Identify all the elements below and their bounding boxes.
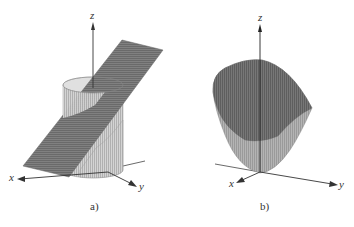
y-label-a: y — [139, 180, 144, 192]
figure-a — [17, 22, 163, 187]
y-axis-b — [260, 172, 332, 184]
z-label-b: z — [258, 11, 262, 23]
z-arrow-icon — [91, 22, 95, 30]
y-arrow-icon-b — [329, 181, 338, 187]
z-label-a: z — [90, 9, 94, 21]
caption-b: b) — [260, 200, 269, 212]
y-arrow-icon — [128, 180, 137, 187]
x-arrow-icon-b — [236, 177, 245, 183]
diagram-canvas — [0, 0, 354, 227]
x-arrow-icon — [17, 176, 25, 182]
axis-back-segment — [123, 161, 145, 166]
figure-b — [213, 24, 338, 187]
x-label-a: x — [9, 171, 14, 183]
y-label-b: y — [339, 178, 344, 190]
z-arrow-icon-b — [258, 24, 262, 32]
caption-a: a) — [90, 200, 99, 212]
x-label-b: x — [229, 177, 234, 189]
